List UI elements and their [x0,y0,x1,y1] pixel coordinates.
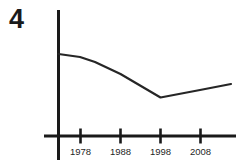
x-tick-label-2008: 2008 [190,146,211,157]
line-chart-plot: 1978 1988 1998 2008 [0,0,243,165]
series-line-trend [59,54,232,98]
x-tick-label-1978: 1978 [70,146,91,157]
x-tick-label-1988: 1988 [110,146,131,157]
x-tick-label-1998: 1998 [150,146,171,157]
figure-container: 4 1978 1988 1998 2008 [0,0,243,165]
